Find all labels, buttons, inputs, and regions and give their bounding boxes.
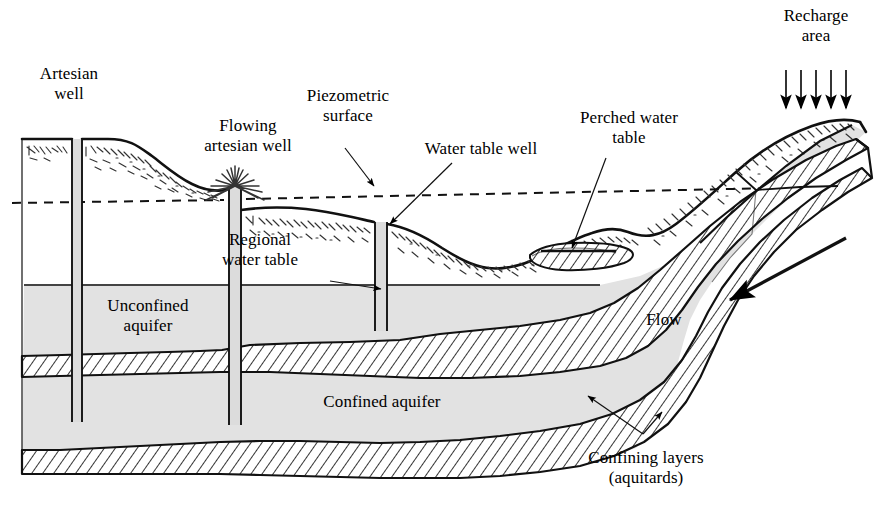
- label-regional-water-table: Regional water table: [190, 230, 330, 270]
- label-recharge-area: Recharge area: [760, 6, 872, 46]
- figure-canvas: Artesian well Flowing artesian well Piez…: [0, 0, 877, 515]
- label-water-table-well: Water table well: [405, 139, 557, 159]
- label-unconfined-aquifer: Unconfined aquifer: [78, 296, 218, 336]
- label-piezometric-surface: Piezometric surface: [288, 86, 408, 126]
- recharge-arrows: [786, 70, 846, 108]
- perched-water-table-lens: [530, 243, 633, 270]
- label-artesian-well: Artesian well: [14, 64, 124, 104]
- cross-section-drawing: [0, 0, 877, 515]
- piezometric-surface-line: [12, 188, 778, 203]
- label-perched-water-table: Perched water table: [555, 108, 703, 148]
- well-artesian: [72, 139, 82, 422]
- well-water-table: [375, 222, 387, 331]
- label-confined-aquifer: Confined aquifer: [292, 392, 472, 412]
- label-confining-layers: Confining layers (aquitards): [565, 448, 727, 488]
- label-flow: Flow: [634, 310, 694, 330]
